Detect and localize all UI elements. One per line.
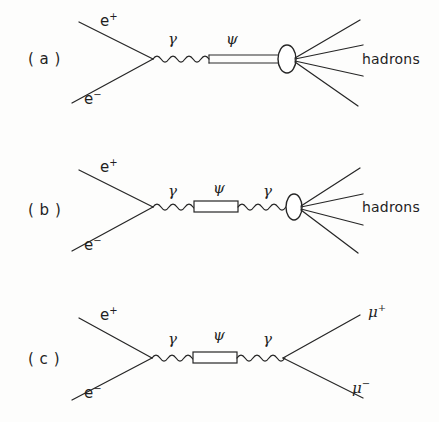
- feynman-figure: ( a ) e+ e− γ ψ hadrons ( b ) e+ e− γ ψ …: [0, 0, 439, 422]
- electron-charge-c: −: [93, 383, 101, 394]
- electron-label-b: e−: [84, 238, 102, 253]
- photon-wave-a: [153, 56, 209, 62]
- photon-wave-right-b: [238, 204, 286, 210]
- muon-charge-c: −: [362, 378, 370, 389]
- positron-symbol-a: e: [100, 12, 109, 30]
- panel-label-c: ( c ): [28, 352, 60, 367]
- psi-rectangle-b: [194, 201, 238, 212]
- positron-charge-c: +: [109, 305, 117, 316]
- psi-label-c: ψ: [213, 328, 225, 343]
- electron-charge-a: −: [93, 89, 101, 100]
- psi-label-a: ψ: [226, 32, 238, 47]
- panel-label-a: ( a ): [28, 52, 61, 67]
- electron-symbol-b: e: [84, 236, 93, 254]
- psi-rectangle-c: [193, 352, 237, 363]
- positron-label-c: e+: [100, 308, 118, 323]
- psi-label-b: ψ: [213, 181, 225, 196]
- muon-label-c: μ−: [352, 381, 370, 396]
- positron-symbol-b: e: [100, 158, 109, 176]
- antimuon-label-c: μ+: [368, 305, 386, 320]
- panel-label-b: ( b ): [28, 203, 61, 218]
- antimuon-line-c: [283, 315, 360, 358]
- positron-label-a: e+: [100, 14, 118, 29]
- positron-line-c: [79, 318, 152, 358]
- diagram-a: [72, 20, 363, 106]
- hadron-line-a-4: [295, 62, 358, 106]
- hadrons-label-b: hadrons: [362, 200, 420, 214]
- antimuon-symbol-c: μ: [368, 303, 378, 321]
- positron-symbol-c: e: [100, 306, 109, 324]
- muon-line-c: [283, 358, 363, 398]
- photon-left-label-c: γ: [168, 332, 177, 347]
- electron-label-a: e−: [84, 92, 102, 107]
- hadronization-blob-b: [286, 194, 302, 220]
- photon-right-label-b: γ: [263, 184, 272, 199]
- hadronization-blob-a: [278, 45, 296, 73]
- electron-symbol-a: e: [84, 90, 93, 108]
- muon-symbol-c: μ: [352, 379, 362, 397]
- positron-label-b: e+: [100, 160, 118, 175]
- photon-label-a: γ: [168, 32, 177, 47]
- positron-charge-b: +: [109, 157, 117, 168]
- electron-charge-b: −: [93, 235, 101, 246]
- photon-wave-right-c: [237, 355, 285, 361]
- antimuon-charge-c: +: [378, 302, 386, 313]
- electron-symbol-c: e: [84, 384, 93, 402]
- electron-label-c: e−: [84, 386, 102, 401]
- photon-left-label-b: γ: [168, 184, 177, 199]
- hadrons-label-a: hadrons: [362, 52, 420, 66]
- positron-line-b: [79, 170, 153, 207]
- positron-charge-a: +: [109, 11, 117, 22]
- photon-right-label-c: γ: [263, 332, 272, 347]
